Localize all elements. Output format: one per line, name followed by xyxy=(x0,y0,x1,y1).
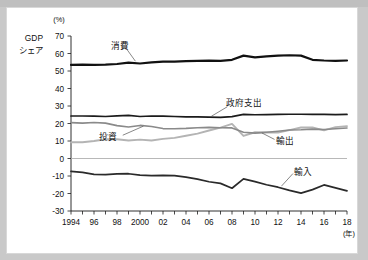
y-axis-tick-label: -20 xyxy=(52,190,64,199)
leader-line-exports xyxy=(262,133,275,139)
y-axis-tick-label: 40 xyxy=(55,85,65,94)
y-axis-tick-label: 60 xyxy=(55,50,65,59)
gdp-share-line-chart: 706050403020100-10-20-301994969820000204… xyxy=(7,8,359,255)
x-axis-tick-label: 18 xyxy=(342,218,352,227)
x-axis-tick-label: 14 xyxy=(296,218,306,227)
y-axis-title-line: シェア xyxy=(19,45,43,55)
x-axis-tick-label: 08 xyxy=(227,218,237,227)
series-label-imports: 輸入 xyxy=(294,166,312,177)
x-axis-tick-label: 06 xyxy=(204,218,214,227)
series-label-consumption: 消費 xyxy=(111,40,129,51)
x-axis-tick-label: 02 xyxy=(158,218,168,227)
y-axis-tick-label: 10 xyxy=(55,137,65,146)
series-line-government-spending xyxy=(71,114,347,117)
chart-figure: 706050403020100-10-20-301994969820000204… xyxy=(6,7,358,254)
y-axis-tick-label: 70 xyxy=(55,32,65,41)
x-axis-tick-label: 10 xyxy=(250,218,260,227)
x-axis-tick-label: 04 xyxy=(181,218,191,227)
series-label-investment: 投資 xyxy=(99,131,117,142)
x-axis-tick-label: 1994 xyxy=(62,218,81,227)
series-line-consumption xyxy=(71,55,347,65)
chart-plot-area: 706050403020100-10-20-301994969820000204… xyxy=(7,8,359,255)
x-axis-tick-label: 98 xyxy=(112,218,122,227)
y-axis-tick-label: 20 xyxy=(55,120,65,129)
y-axis-tick-label: -30 xyxy=(52,207,64,216)
x-axis-tick-label: 16 xyxy=(319,218,329,227)
y-axis-tick-label: 50 xyxy=(55,67,65,76)
y-axis-tick-label: 0 xyxy=(59,155,64,164)
y-axis-tick-label: 30 xyxy=(55,102,65,111)
series-label-exports: 輸出 xyxy=(276,135,294,146)
series-label-government-spending: 政府支出 xyxy=(226,97,262,108)
x-axis-tick-label: 96 xyxy=(89,218,99,227)
x-axis-tick-label: 12 xyxy=(273,218,283,227)
leader-line-investment xyxy=(123,126,144,135)
top-background-strip xyxy=(0,0,368,7)
y-axis-tick-label: -10 xyxy=(52,172,64,181)
x-axis-tick-label: 2000 xyxy=(131,218,150,227)
x-axis-unit-label: (年) xyxy=(343,229,355,238)
leader-line-imports xyxy=(281,174,293,187)
leader-line-consumption xyxy=(127,50,135,61)
y-axis-unit-label: (%) xyxy=(53,15,65,24)
y-axis-title-line: GDP xyxy=(25,33,44,43)
